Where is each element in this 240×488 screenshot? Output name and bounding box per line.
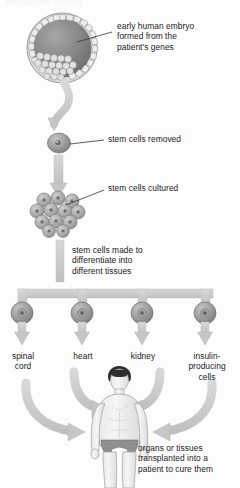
- arrow-culture-to-branch: [56, 240, 64, 282]
- arrow-embryo-to-cell: [48, 83, 69, 131]
- label-differentiate: stem cells made to differentiate into di…: [72, 245, 202, 276]
- label-tissue-kidney: kidney: [121, 351, 165, 361]
- label-tissue-heart: heart: [62, 351, 104, 361]
- cell-culture-cluster: [30, 190, 104, 237]
- removed-leader-line: [70, 140, 104, 144]
- label-stem-cells-cultured: stem cells cultured: [108, 183, 228, 193]
- tissue-cell-kidney: [131, 302, 153, 345]
- tissue-cell-heart: [71, 302, 93, 345]
- single-stem-cell: [48, 133, 105, 153]
- blastocyst-embryo: [27, 13, 112, 83]
- tissue-cell-spinal-cord: [11, 302, 33, 345]
- label-organs-transplanted: organs or tissues transplanted into a pa…: [138, 443, 240, 474]
- tissue-cells-row: [11, 302, 216, 345]
- diagram-canvas: therapeutic cloning: [0, 0, 240, 488]
- tissue-cell-insulin: [194, 302, 216, 345]
- label-early-human-embryo: early human embryo formed from the patie…: [117, 21, 239, 52]
- label-stem-cells-removed: stem cells removed: [108, 134, 228, 144]
- differentiation-branch: [18, 289, 213, 305]
- label-tissue-spinal-cord: spinal cord: [2, 351, 44, 372]
- diagram-artwork: [0, 0, 240, 488]
- label-tissue-insulin-producing-cells: insulin- producing cells: [178, 351, 236, 382]
